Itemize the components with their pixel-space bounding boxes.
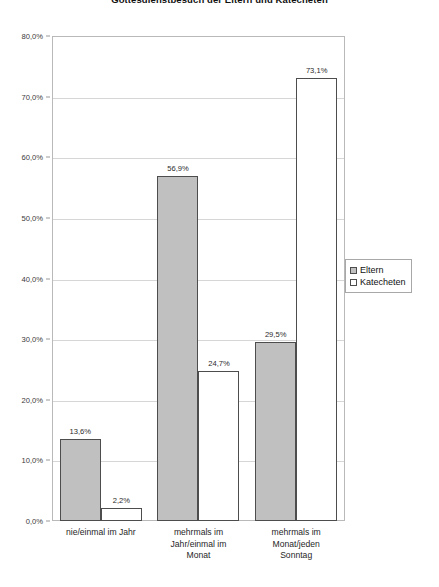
y-axis-tick-label: 30,0% [21,335,43,344]
x-axis-category-label: nie/einmal im Jahr [52,527,150,539]
bar-value-label: 24,7% [208,359,230,368]
y-axis-tick-mark [46,157,50,158]
x-axis-category-line: Jahr/einmal im [150,539,248,551]
legend-label-katecheten: Katecheten [360,277,406,287]
legend-item-katecheten[interactable]: Katecheten [350,276,406,288]
x-axis-category-line: mehrmals im [150,527,248,539]
y-axis-tick-mark [46,217,50,218]
bar-group: 56,9%24,7% [150,36,248,521]
x-axis-category-label: mehrmals imMonat/jedenSonntag [247,527,345,562]
legend-label-eltern: Eltern [360,265,384,275]
y-axis-tick-label: 50,0% [21,213,43,222]
bar-eltern[interactable]: 29,5% [255,342,296,521]
bar-katecheten[interactable]: 24,7% [198,371,239,521]
legend-swatch-icon-katecheten [350,279,357,286]
bar-katecheten[interactable]: 73,1% [296,78,337,521]
y-axis-tick-mark [46,339,50,340]
y-axis-tick-label: 70,0% [21,92,43,101]
bars-layer: 13,6%2,2%56,9%24,7%29,5%73,1% [52,36,345,521]
bar-value-label: 29,5% [265,330,287,339]
x-axis-category-line: mehrmals im [247,527,345,539]
x-axis-category-line: Monat [150,550,248,562]
y-axis-tick-mark [46,399,50,400]
x-axis-category-line: Monat/jeden [247,539,345,551]
bar-group: 13,6%2,2% [52,36,150,521]
y-axis-tick-label: 60,0% [21,153,43,162]
x-axis-category-line: Sonntag [247,550,345,562]
chart-legend: Eltern Katecheten [345,259,412,293]
y-axis-tick-mark [46,278,50,279]
y-axis-tick-mark [46,36,50,37]
bar-value-label: 13,6% [70,427,92,436]
x-axis-category-line: nie/einmal im Jahr [52,527,150,539]
y-axis-tick-label: 40,0% [21,274,43,283]
x-axis-category-label: mehrmals imJahr/einmal imMonat [150,527,248,562]
chart-container: Gottesdienstbesuch der Eltern und Katech… [0,0,439,587]
y-axis-tick-mark [46,96,50,97]
bar-katecheten[interactable]: 2,2% [101,508,142,521]
bar-value-label: 73,1% [306,66,328,75]
chart-title: Gottesdienstbesuch der Eltern und Katech… [0,0,439,5]
y-axis: 0,0%10,0%20,0%30,0%40,0%50,0%60,0%70,0%8… [0,0,52,587]
y-axis-tick-label: 80,0% [21,32,43,41]
y-axis-tick-label: 20,0% [21,395,43,404]
bar-group: 29,5%73,1% [247,36,345,521]
legend-swatch-icon-eltern [350,267,357,274]
y-axis-tick-mark [46,460,50,461]
legend-item-eltern[interactable]: Eltern [350,264,406,276]
y-axis-tick-label: 0,0% [26,517,43,526]
bar-value-label: 56,9% [167,164,189,173]
bar-value-label: 2,2% [113,496,130,505]
y-axis-tick-label: 10,0% [21,456,43,465]
y-axis-tick-mark [46,521,50,522]
bar-eltern[interactable]: 13,6% [60,439,101,521]
bar-eltern[interactable]: 56,9% [157,176,198,521]
